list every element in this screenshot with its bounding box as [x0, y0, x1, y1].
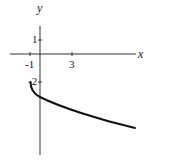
y-tick-label-neg2: -2 [28, 75, 37, 87]
x-tick-label-3: 3 [69, 58, 75, 70]
y-axis-label: y [36, 1, 43, 15]
x-tick-label-neg1: -1 [25, 58, 34, 70]
function-curve [31, 82, 136, 128]
function-graph: y x -1 3 1 -2 [0, 0, 175, 163]
y-tick-label-1: 1 [32, 33, 38, 45]
x-axis-label: x [137, 47, 144, 61]
